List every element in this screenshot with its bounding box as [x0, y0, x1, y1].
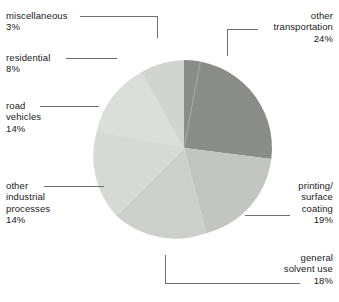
- pie-label-other-industrial-processes: other industrial processes 14%: [6, 180, 90, 226]
- pie-label-residential: residential 8%: [6, 52, 96, 75]
- pie-label-other-transportation: other transportation 24%: [221, 10, 333, 44]
- pie-label-general-solvent-use: general solvent use 18%: [221, 252, 333, 286]
- pie-chart: miscellaneous 3% residential 8% road veh…: [0, 0, 339, 302]
- pie-label-printing-surface-coating: printing/ surface coating 19%: [233, 180, 333, 226]
- pie-label-miscellaneous: miscellaneous 3%: [6, 10, 96, 33]
- pie-slice-other-transportation[interactable]: [184, 60, 272, 159]
- pie-label-road-vehicles: road vehicles 14%: [6, 100, 86, 134]
